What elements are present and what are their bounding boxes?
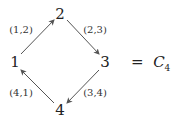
equals-sign: = — [131, 53, 144, 71]
cycle-equation: = C4 — [131, 53, 170, 77]
edge-label-1-2: (1,2) — [9, 25, 33, 35]
edge-label-4-1: (4,1) — [9, 88, 33, 98]
cycle-subscript: 4 — [165, 63, 171, 73]
node-3: 3 — [100, 55, 110, 70]
cycle-symbol: C — [153, 53, 164, 71]
node-2: 2 — [55, 7, 65, 22]
node-4: 4 — [55, 103, 65, 118]
node-1: 1 — [10, 55, 20, 70]
edge-label-3-4: (3,4) — [83, 88, 107, 98]
edge-label-2-3: (2,3) — [83, 25, 107, 35]
